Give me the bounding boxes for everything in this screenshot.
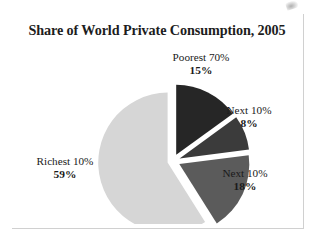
pie-label-next10b-category: Next 10% <box>197 167 293 180</box>
pie-label-poorest70-value: 15% <box>147 64 255 77</box>
figure-frame: Share of World Private Consumption, 2005… <box>11 13 303 228</box>
pie-label-poorest70-category: Poorest 70% <box>147 51 255 64</box>
chart-title: Share of World Private Consumption, 2005 <box>23 22 291 39</box>
pie-label-richest10: Richest 10% 59% <box>13 155 117 182</box>
pie-label-richest10-value: 59% <box>13 168 117 181</box>
pie-label-next10b-value: 18% <box>197 180 293 193</box>
pie-label-poorest70: Poorest 70% 15% <box>147 51 255 78</box>
pie-label-next10a-value: 8% <box>203 117 295 130</box>
pie-label-next10b: Next 10% 18% <box>197 167 293 194</box>
pie-chart-plot-area: Poorest 70% 15% Next 10% 8% Next 10% 18%… <box>11 43 299 224</box>
pie-label-next10a-category: Next 10% <box>203 104 295 117</box>
scan-artifact <box>285 0 299 11</box>
pie-label-next10a: Next 10% 8% <box>203 104 295 131</box>
pie-label-richest10-category: Richest 10% <box>13 155 117 168</box>
